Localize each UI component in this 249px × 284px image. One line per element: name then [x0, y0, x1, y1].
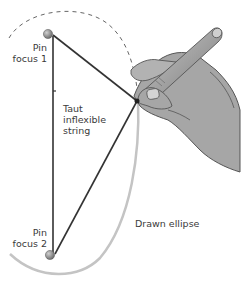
- pencil-tip: [135, 99, 140, 104]
- pin-focus-1-line2: focus 1: [10, 53, 47, 64]
- pin-focus-2-icon: [45, 250, 54, 259]
- pin-focus-1-line1: Pin: [10, 42, 47, 53]
- pin-focus-1-label: Pin focus 1: [10, 42, 47, 64]
- hand-icon: [131, 26, 240, 172]
- string-label-line1: Taut: [63, 103, 106, 114]
- drawn-ellipse-label: Drawn ellipse: [135, 218, 199, 229]
- string-label-line2: inflexible: [63, 114, 106, 125]
- pin-focus-1-icon: [43, 29, 52, 38]
- string-label: Taut inflexible string: [63, 103, 106, 136]
- string-label-line3: string: [63, 125, 106, 136]
- pin-focus-2-label: Pin focus 2: [10, 227, 47, 249]
- pin-focus-2-line1: Pin: [10, 227, 47, 238]
- pin-focus-2-line2: focus 2: [10, 238, 47, 249]
- taut-string: [53, 35, 137, 254]
